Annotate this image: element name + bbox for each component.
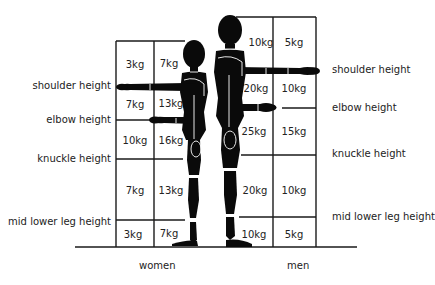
men-weight-cell: 20kg: [237, 185, 273, 197]
women-weight-cell: 7kg: [117, 185, 153, 197]
women-weight-cell: 10kg: [117, 135, 153, 147]
men-weight-cell: 25kg: [236, 126, 272, 138]
men-mid-lower-leg-height-label: mid lower leg height: [332, 211, 435, 223]
women-weight-cell: 13kg: [153, 98, 189, 110]
women-weight-cell: 16kg: [153, 135, 189, 147]
women-weight-cell: 7kg: [151, 58, 187, 70]
women-mid-lower-leg-height-label: mid lower leg height: [8, 216, 111, 228]
women-weight-cell: 3kg: [117, 59, 153, 71]
women-weight-cell: 13kg: [153, 185, 189, 197]
men-weight-cell: 10kg: [243, 37, 279, 49]
men-knuckle-height-label: knuckle height: [332, 148, 406, 160]
women-weight-cell: 3kg: [115, 229, 151, 241]
men-group-label: men: [287, 260, 309, 272]
women-group-label: women: [139, 260, 176, 272]
men-weight-cell: 10kg: [276, 83, 312, 95]
men-weight-cell: 15kg: [276, 126, 312, 138]
men-weight-cell: 20kg: [238, 83, 274, 95]
men-shoulder-height-label: shoulder height: [332, 64, 410, 76]
men-weight-cell: 5kg: [276, 37, 312, 49]
women-weight-cell: 7kg: [151, 228, 187, 240]
women-weight-cell: 7kg: [117, 99, 153, 111]
men-elbow-height-label: elbow height: [332, 102, 397, 114]
women-knuckle-height-label: knuckle height: [37, 153, 111, 165]
men-weight-cell: 10kg: [236, 229, 272, 241]
women-shoulder-height-label: shoulder height: [33, 80, 111, 92]
women-elbow-height-label: elbow height: [46, 114, 111, 126]
men-weight-cell: 10kg: [276, 185, 312, 197]
men-weight-cell: 5kg: [276, 229, 312, 241]
